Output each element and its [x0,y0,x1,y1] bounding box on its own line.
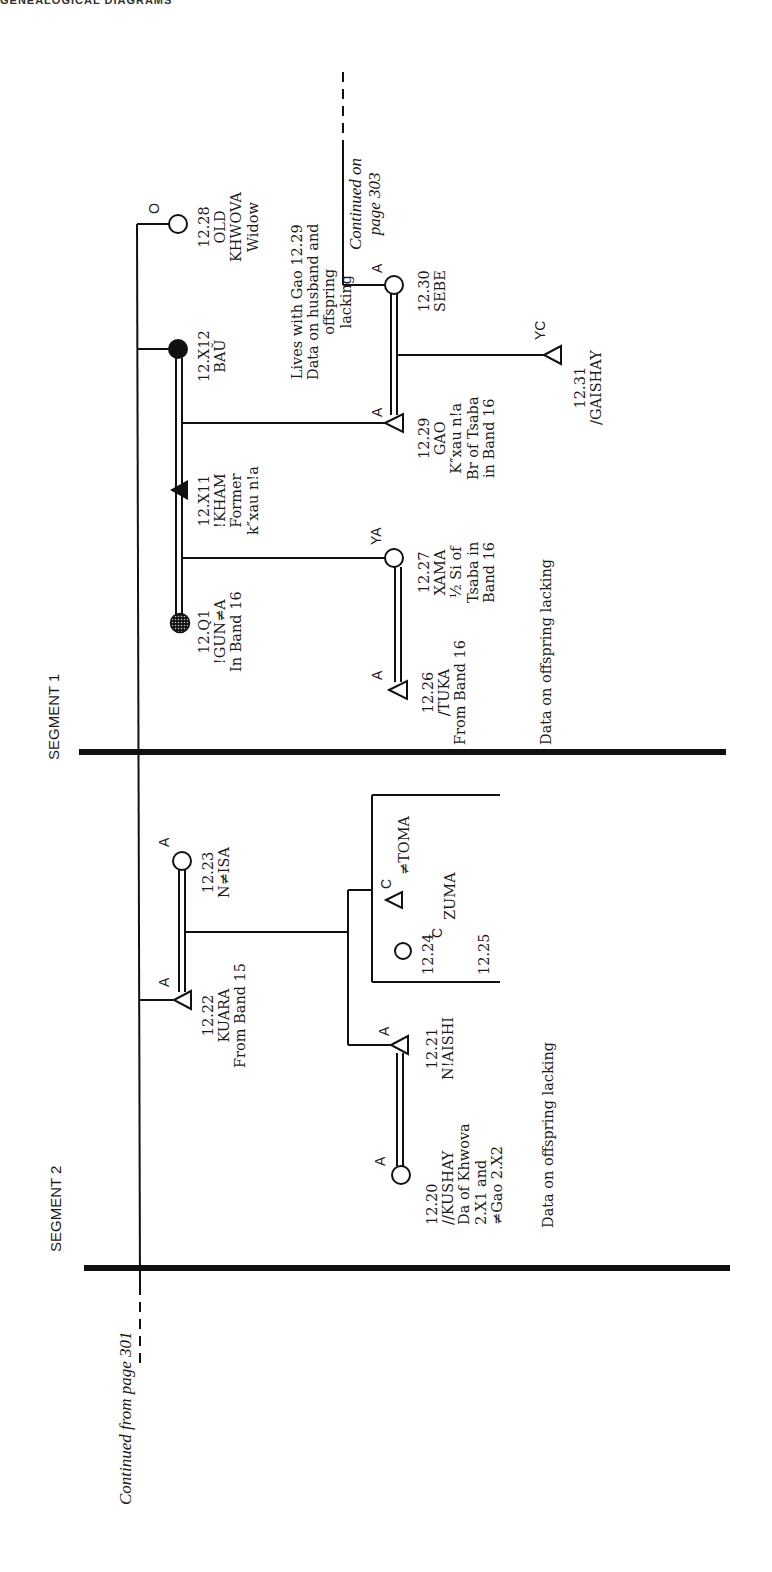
circle-12-28-icon [169,215,187,233]
id-12-24: 12.24 [420,933,436,975]
circle-12-27-icon [385,549,403,567]
label-12-Q1: 12.Q1 !GUN≠A In Band 16 [196,591,245,672]
label-12-27: 12.27 XAMA ½ Si of Tsaba in Band 16 [416,542,497,603]
circle-12-30-icon [385,276,403,294]
triangle-12-26-icon [389,681,407,699]
triangle-12-21-icon [391,1036,408,1054]
name-12-25: ZUMA [442,872,458,920]
label-12-29: 12.29 GAO K″xau n!a Br of Tsaba in Band … [416,396,497,480]
code-12-22: A [157,978,173,987]
code-12-26: A [370,671,386,680]
segment-1-divider [79,749,726,755]
note-seg1-offspring: Data on offspring lacking [538,559,554,745]
dotted-circle-12-Q1-icon [171,614,190,633]
filled-triangle-12-X11-icon [170,480,188,500]
label-12-23: 12.23 N≠ISA [200,847,232,898]
code-12-31: YC [533,321,549,340]
circle-12-25-icon [395,943,411,959]
code-12-30: A [370,264,386,273]
filled-circle-12-X12-icon [168,339,188,359]
label-12-22: 12.22 KUARA From Band 15 [200,963,249,1068]
triangle-12-24-icon [386,892,402,908]
name-12-24: ≠TOMA [396,816,412,875]
label-12-X11: 12.X11 !KHAM Former k″xau n!a [196,466,261,535]
segment-2-divider [84,1265,730,1271]
code-12-20: A [373,1157,389,1166]
label-12-26: 12.26 /TUKA From Band 16 [420,640,469,745]
label-12-20: 12.20 //KUSHAY Da of Khwova 2.X1 and ≠Ga… [424,1123,505,1225]
label-12-21: 12.21 N!AISHI [424,1017,456,1080]
label-12-30: 12.30 SEBE [416,270,448,312]
circle-12-23-icon [173,852,191,870]
code-12-27: YA [369,527,385,545]
label-12-X12: 12.X12 BAŬ [196,330,228,382]
label-12-28: 12.28 OLD KHWOVA Widow [196,192,261,262]
code-12-29: A [370,408,386,417]
note-sebe: Lives with Gao 12.29 Data on husband and… [289,223,354,380]
segment-1-label: SEGMENT 1 [46,674,63,760]
segment-2-label: SEGMENT 2 [48,1166,65,1252]
continued-from-note[interactable]: Continued from page 301 [116,1331,135,1505]
code-12-28: O [147,203,163,214]
triangle-12-29-icon [385,414,403,432]
circle-12-20-icon [392,1166,410,1184]
id-12-25: 12.25 [476,933,492,975]
code-12-24: C [379,879,395,889]
code-12-21: A [377,1027,393,1036]
triangle-12-31-icon [544,346,561,364]
main-trunk-line [137,224,140,1290]
triangle-12-22-icon [174,991,191,1009]
label-12-31: 12.31 /GAISHAY [572,350,604,425]
note-seg2-offspring: Data on offspring lacking [540,1042,556,1228]
code-12-23: A [157,838,173,847]
